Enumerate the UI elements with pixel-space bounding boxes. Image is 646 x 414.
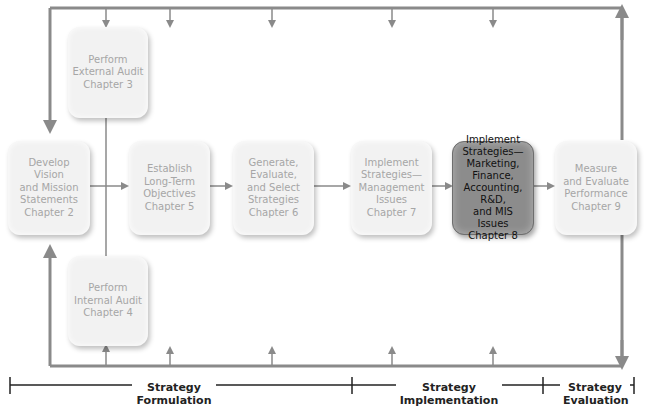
node-strategies: Generate, Evaluate, and Select Strategie… <box>233 141 314 235</box>
phase-scale <box>10 377 634 394</box>
node-label: Perform External Audit Chapter 3 <box>73 54 144 92</box>
node-measure: Measure and Evaluate Performance Chapter… <box>555 141 637 235</box>
node-impl-management: Implement Strategies— Management Issues … <box>351 141 432 235</box>
node-label: Perform Internal Audit Chapter 4 <box>74 282 142 320</box>
node-vision-mission: Develop Vision and Mission Statements Ch… <box>8 141 90 235</box>
phase-implementation-label: Strategy Implementation <box>396 381 502 407</box>
phase-evaluation-label: Strategy Evaluation <box>560 381 630 407</box>
node-external-audit: Perform External Audit Chapter 3 <box>68 27 148 118</box>
node-label: Develop Vision and Mission Statements Ch… <box>12 157 86 220</box>
node-label: Generate, Evaluate, and Select Strategie… <box>247 157 300 220</box>
node-label: Measure and Evaluate Performance Chapter… <box>563 163 629 213</box>
node-label: Establish Long-Term Objectives Chapter 5 <box>143 163 196 213</box>
node-internal-audit: Perform Internal Audit Chapter 4 <box>68 256 148 346</box>
phase-formulation-label: Strategy Formulation <box>132 381 216 407</box>
node-label: Implement Strategies— Marketing, Finance… <box>457 134 529 242</box>
node-impl-functional: Implement Strategies— Marketing, Finance… <box>452 141 534 235</box>
node-objectives: Establish Long-Term Objectives Chapter 5 <box>129 141 210 235</box>
node-label: Implement Strategies— Management Issues … <box>359 157 425 220</box>
